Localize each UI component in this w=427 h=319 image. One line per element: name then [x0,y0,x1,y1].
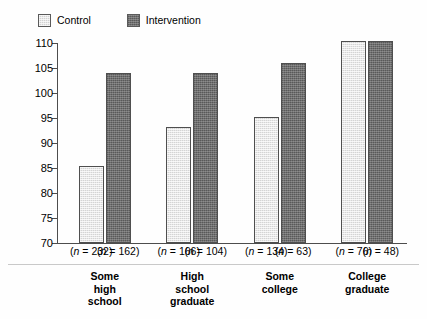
x-axis-line [57,243,407,244]
y-tick-label: 70 [41,238,53,249]
y-tick-label: 90 [41,138,53,149]
legend-entry-control: Control [38,14,91,27]
y-tick-label: 110 [35,38,53,49]
bar-intervention-3 [368,41,393,243]
y-tick-label: 100 [35,88,53,99]
chart-legend: Control Intervention [38,10,201,30]
bar-control-1 [166,127,191,243]
bar-control-0 [79,166,104,244]
legend-swatch-intervention-icon [127,14,140,27]
category-separator [8,264,419,265]
bar-intervention-2 [281,63,306,244]
bar-intervention-0 [106,73,131,243]
bar-chart-figure: Control Intervention 7075808590951001051… [0,0,427,319]
category-label-0: Some high school [88,270,122,308]
sample-size-label-7: (n = 48) [363,246,400,257]
y-tick-label: 80 [41,188,53,199]
legend-label-control: Control [57,15,91,26]
bar-control-3 [341,41,366,244]
y-tick-label: 105 [35,63,53,74]
sample-size-label-3: (n = 104) [185,246,227,257]
category-label-1: High school graduate [170,270,214,308]
y-tick-label: 95 [41,113,53,124]
category-label-2: Some college [262,270,298,295]
sample-size-label-5: (n = 63) [275,246,312,257]
category-label-3: College graduate [345,270,389,295]
bar-intervention-1 [193,73,218,243]
legend-entry-intervention: Intervention [127,14,201,27]
y-tick-label: 85 [41,163,53,174]
y-tick-label: 75 [41,213,53,224]
legend-swatch-control-icon [38,14,51,27]
y-axis-line [57,43,58,243]
plot-area: 707580859095100105110 [57,43,407,243]
bar-control-2 [254,117,279,244]
legend-label-intervention: Intervention [146,15,201,26]
sample-size-label-1: (n = 162) [97,246,139,257]
